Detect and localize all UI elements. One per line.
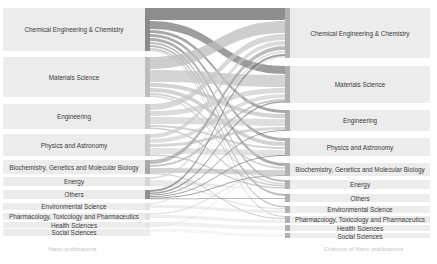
sankey-link[interactable] <box>150 229 285 237</box>
left-axis-label: Nano-publications <box>0 246 145 252</box>
sankey-link[interactable] <box>150 222 285 230</box>
left-node-label: Social Sciences <box>3 229 145 236</box>
left-node-label: Pharmacology, Toxicology and Pharmaceuti… <box>3 213 145 220</box>
left-node-label: Energy <box>3 177 145 186</box>
left-node-bar[interactable] <box>145 177 150 186</box>
left-node-label: Others <box>3 190 145 199</box>
left-node-label: Health Sciences <box>3 222 145 229</box>
left-node-bar[interactable] <box>145 57 150 97</box>
right-node-label: Pharmacology, Toxicology and Pharmaceuti… <box>290 216 430 223</box>
right-node-label: Health Sciences <box>290 225 430 232</box>
right-node-label: Engineering <box>290 110 430 131</box>
right-axis-label: Citations of Nano-publications <box>290 246 437 252</box>
right-node-label: Environmental Science <box>290 206 430 213</box>
right-node-label: Materials Science <box>290 66 430 103</box>
left-node-bar[interactable] <box>145 104 150 129</box>
left-node-label: Chemical Engineering & Chemistry <box>3 8 145 51</box>
right-node-label: Chemical Engineering & Chemistry <box>290 8 430 58</box>
left-node-bar[interactable] <box>145 190 150 199</box>
sankey-link[interactable] <box>150 215 285 223</box>
sankey-link[interactable] <box>150 148 285 156</box>
left-node-label: Physics and Astronomy <box>3 134 145 156</box>
sankey-diagram: Chemical Engineering & ChemistryMaterial… <box>0 0 437 264</box>
left-node-bar[interactable] <box>145 8 150 51</box>
right-node-label: Social Sciences <box>290 233 430 240</box>
right-node-label: Others <box>290 194 430 202</box>
left-node-bar[interactable] <box>145 134 150 156</box>
left-node-bar[interactable] <box>145 222 150 228</box>
right-node-label: Biochemistry, Genetics and Molecular Bio… <box>290 163 430 176</box>
left-node-bar[interactable] <box>145 160 150 174</box>
left-node-bar[interactable] <box>145 213 150 220</box>
left-node-label: Biochemistry, Genetics and Molecular Bio… <box>3 160 145 174</box>
sankey-link[interactable] <box>150 8 285 20</box>
left-node-label: Materials Science <box>3 57 145 97</box>
right-node-label: Physics and Astronomy <box>290 138 430 156</box>
left-node-bar[interactable] <box>145 203 150 210</box>
right-node-label: Energy <box>290 180 430 189</box>
left-node-label: Engineering <box>3 104 145 129</box>
left-node-label: Environmental Science <box>3 203 145 210</box>
left-node-bar[interactable] <box>145 229 150 236</box>
